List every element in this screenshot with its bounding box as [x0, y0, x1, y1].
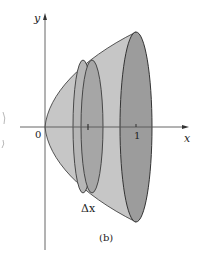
figure-caption: (b) [99, 232, 113, 243]
edge-artifact [2, 112, 5, 148]
tick-one-label: 1 [134, 130, 140, 141]
y-axis-label: y [33, 12, 41, 25]
solid-of-revolution-diagram: y x 0 1 Δx (b) [0, 0, 199, 261]
origin-label: 0 [35, 129, 41, 140]
x-axis-arrow-icon [182, 125, 189, 129]
slice-right-ellipse [81, 60, 103, 193]
x-axis-label: x [184, 132, 191, 145]
y-axis-arrow-icon [43, 13, 47, 20]
slice-width-label: Δx [81, 202, 96, 215]
